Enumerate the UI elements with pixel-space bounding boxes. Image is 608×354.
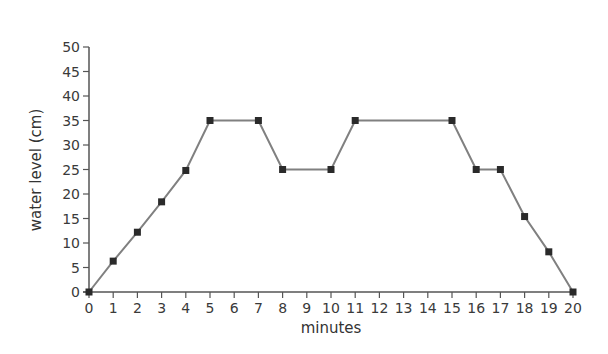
x-tick-label: 12	[370, 300, 388, 316]
data-point-marker	[521, 213, 528, 220]
data-point-marker	[255, 117, 262, 124]
y-tick-label: 30	[62, 137, 80, 153]
x-tick-label: 11	[346, 300, 364, 316]
data-point-marker	[182, 167, 189, 174]
line-chart: 05101520253035404550 0123456789101112131…	[0, 0, 608, 354]
data-point-marker	[86, 289, 93, 296]
x-tick-label: 2	[133, 300, 142, 316]
data-point-marker	[545, 248, 552, 255]
x-tick-label: 9	[302, 300, 311, 316]
x-axis: 01234567891011121314151617181920	[83, 292, 582, 316]
x-tick-label: 14	[419, 300, 437, 316]
y-axis: 05101520253035404550	[62, 39, 89, 300]
x-tick-label: 17	[491, 300, 509, 316]
x-tick-label: 15	[443, 300, 461, 316]
x-tick-label: 5	[206, 300, 215, 316]
x-tick-label: 3	[157, 300, 166, 316]
x-axis-title: minutes	[301, 319, 362, 337]
x-tick-label: 19	[540, 300, 558, 316]
x-tick-label: 4	[181, 300, 190, 316]
series-line	[89, 121, 573, 293]
data-point-marker	[570, 289, 577, 296]
y-tick-label: 50	[62, 39, 80, 55]
data-point-marker	[352, 117, 359, 124]
data-point-marker	[473, 166, 480, 173]
x-tick-label: 18	[516, 300, 534, 316]
data-point-marker	[328, 166, 335, 173]
y-tick-label: 0	[71, 284, 80, 300]
data-point-marker	[110, 258, 117, 265]
data-point-marker	[279, 166, 286, 173]
x-tick-label: 1	[109, 300, 118, 316]
data-point-marker	[449, 117, 456, 124]
y-tick-label: 35	[62, 113, 80, 129]
data-point-marker	[207, 117, 214, 124]
x-tick-label: 20	[564, 300, 582, 316]
y-tick-label: 10	[62, 235, 80, 251]
x-tick-label: 7	[254, 300, 263, 316]
x-tick-label: 13	[395, 300, 413, 316]
y-axis-title: water level (cm)	[27, 109, 45, 232]
data-point-marker	[158, 198, 165, 205]
y-tick-label: 15	[62, 211, 80, 227]
data-point-marker	[497, 166, 504, 173]
data-point-marker	[134, 229, 141, 236]
y-tick-label: 40	[62, 88, 80, 104]
x-tick-label: 6	[230, 300, 239, 316]
y-tick-label: 25	[62, 162, 80, 178]
data-series	[86, 117, 577, 296]
x-tick-label: 0	[85, 300, 94, 316]
x-tick-label: 16	[467, 300, 485, 316]
x-tick-label: 8	[278, 300, 287, 316]
x-tick-label: 10	[322, 300, 340, 316]
y-tick-label: 20	[62, 186, 80, 202]
y-tick-label: 5	[71, 260, 80, 276]
y-tick-label: 45	[62, 64, 80, 80]
